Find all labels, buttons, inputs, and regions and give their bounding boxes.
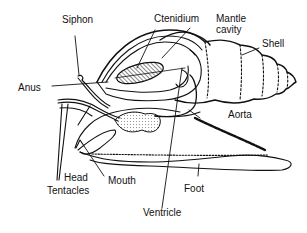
aorta-label: Aorta: [228, 110, 252, 120]
head-label: Head: [64, 173, 88, 183]
siphon-label: Siphon: [62, 15, 93, 25]
ctenidium-label: Ctenidium: [154, 14, 199, 24]
siphon-tube: [78, 75, 110, 108]
visceral-mass: [115, 112, 160, 132]
siphon-leader: [75, 36, 79, 75]
shell-leader: [242, 48, 259, 55]
anus-label: Anus: [18, 83, 41, 93]
shell-label: Shell: [262, 39, 284, 49]
foot-outline: [80, 112, 291, 171]
tentacles-label: Tentacles: [47, 186, 89, 196]
gastropod-diagram: Siphon Ctenidium Mantle cavity Shell Anu…: [0, 0, 307, 233]
gastropod-illustration: [0, 0, 307, 233]
ventricle-label: Ventricle: [143, 208, 181, 218]
foot-label: Foot: [184, 184, 204, 194]
mouth-label: Mouth: [108, 176, 136, 186]
aorta-leader: [189, 110, 200, 118]
foot-leader: [198, 164, 199, 176]
mantle-cavity-label-line2: cavity: [216, 25, 242, 35]
mantle-cavity-label-line1: Mantle: [216, 14, 246, 24]
